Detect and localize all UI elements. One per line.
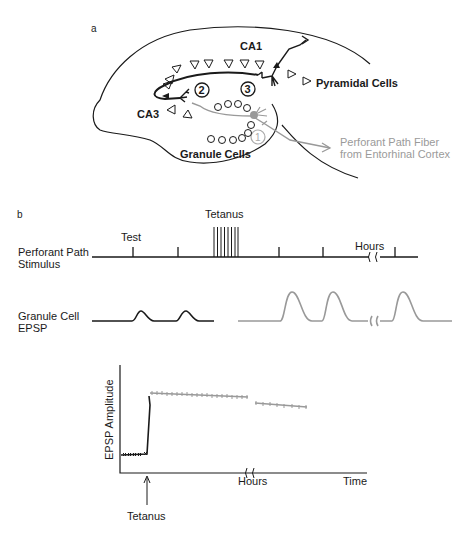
perforant-fiber-source-label: from Entorhinal Cortex bbox=[340, 148, 451, 160]
ltp-figure: a 2 3 1 bbox=[0, 0, 469, 533]
ca3-label: CA3 bbox=[137, 108, 159, 120]
stimulus-row-label-2: Stimulus bbox=[18, 258, 61, 270]
hours-label: Hours bbox=[355, 240, 385, 252]
svg-text:2: 2 bbox=[199, 84, 205, 96]
panel-b-label: b bbox=[17, 209, 23, 220]
ca1-label: CA1 bbox=[240, 40, 262, 52]
tetanus-label: Tetanus bbox=[205, 208, 244, 220]
pyramidal-cell-icons bbox=[163, 60, 311, 118]
test-label: Test bbox=[121, 231, 141, 243]
epsp-trace-pre bbox=[92, 311, 214, 321]
svg-text:1: 1 bbox=[255, 132, 261, 143]
ca1-dendrite bbox=[258, 66, 278, 86]
granule-cell-icons bbox=[208, 101, 255, 144]
chart-axes bbox=[120, 365, 367, 473]
x-break-label: Hours bbox=[238, 475, 268, 487]
hippocampus-outline bbox=[93, 27, 370, 163]
x-axis-label: Time bbox=[343, 475, 367, 487]
synapse-marker-3: 3 bbox=[241, 82, 255, 96]
tetanus-arrow-icon bbox=[144, 476, 150, 505]
series-pre-tetanus bbox=[121, 396, 150, 455]
ca1-axon bbox=[277, 40, 306, 66]
epsp-row-label-2: EPSP bbox=[18, 322, 47, 334]
perforant-fiber-label: Perforant Path Fiber bbox=[340, 136, 439, 148]
stimulus-row-label: Perforant Path bbox=[18, 246, 89, 258]
ltp-chart: EPSP Amplitude Hours Time Tetanus bbox=[103, 365, 367, 522]
pyramidal-cells-label: Pyramidal Cells bbox=[316, 77, 398, 89]
ca3-dendrite bbox=[180, 89, 189, 102]
svg-text:3: 3 bbox=[245, 83, 251, 95]
granule-cells-label: Granule Cells bbox=[180, 148, 251, 160]
synapse-marker-1: 1 bbox=[251, 130, 265, 144]
epsp-row-label: Granule Cell bbox=[18, 310, 79, 322]
panel-a-label: a bbox=[91, 23, 97, 34]
tetanus-annotation: Tetanus bbox=[127, 510, 166, 522]
epsp-trace-post bbox=[238, 292, 452, 326]
synapse-marker-2: 2 bbox=[195, 83, 209, 97]
series-post-early bbox=[150, 393, 248, 397]
y-axis-label: EPSP Amplitude bbox=[103, 379, 115, 460]
granule-soma-icon bbox=[250, 111, 258, 119]
